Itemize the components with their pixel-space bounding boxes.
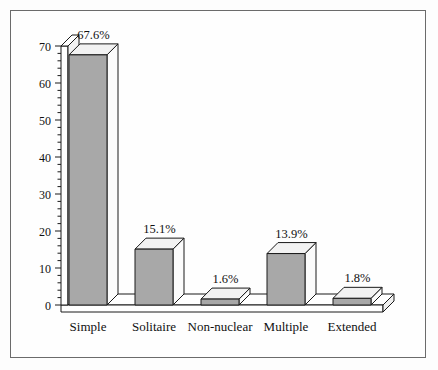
bar-simple[interactable] <box>69 44 118 305</box>
y-axis-front <box>61 46 68 305</box>
data-label-extended: 1.8% <box>344 271 370 285</box>
floor-front <box>61 305 383 312</box>
bar-front-face <box>135 249 173 305</box>
y-tick-label-20: 20 <box>39 225 51 239</box>
bars <box>69 44 382 305</box>
y-tick-label-60: 60 <box>39 77 51 91</box>
bar-side-face <box>107 44 118 305</box>
category-label-solitaire: Solitaire <box>132 319 176 334</box>
y-tick-label-0: 0 <box>45 299 51 313</box>
y-tick-label-30: 30 <box>39 188 51 202</box>
category-label-extended: Extended <box>327 319 377 334</box>
bar-multiple[interactable] <box>267 243 316 305</box>
y-tick-label-50: 50 <box>39 114 51 128</box>
category-label-multiple: Multiple <box>264 319 309 334</box>
bar-front-face <box>201 299 239 305</box>
bar-chart: 01020304050607067.6%15.1%1.6%13.9%1.8%Si… <box>11 11 425 357</box>
data-label-solitaire: 15.1% <box>143 222 175 236</box>
data-label-non-nuclear: 1.6% <box>212 272 238 286</box>
category-label-simple: Simple <box>70 319 107 334</box>
y-tick-label-70: 70 <box>39 40 51 54</box>
figure-border: 01020304050607067.6%15.1%1.6%13.9%1.8%Si… <box>10 10 426 358</box>
bar-front-face <box>267 254 305 305</box>
bar-solitaire[interactable] <box>135 238 184 305</box>
bar-front-face <box>333 298 371 305</box>
bar-front-face <box>69 55 107 305</box>
chart-screenshot: 01020304050607067.6%15.1%1.6%13.9%1.8%Si… <box>0 0 438 370</box>
y-tick-label-40: 40 <box>39 151 51 165</box>
category-label-non-nuclear: Non-nuclear <box>188 319 254 334</box>
data-label-multiple: 13.9% <box>275 227 307 241</box>
data-label-simple: 67.6% <box>77 28 109 42</box>
y-tick-label-10: 10 <box>39 262 51 276</box>
